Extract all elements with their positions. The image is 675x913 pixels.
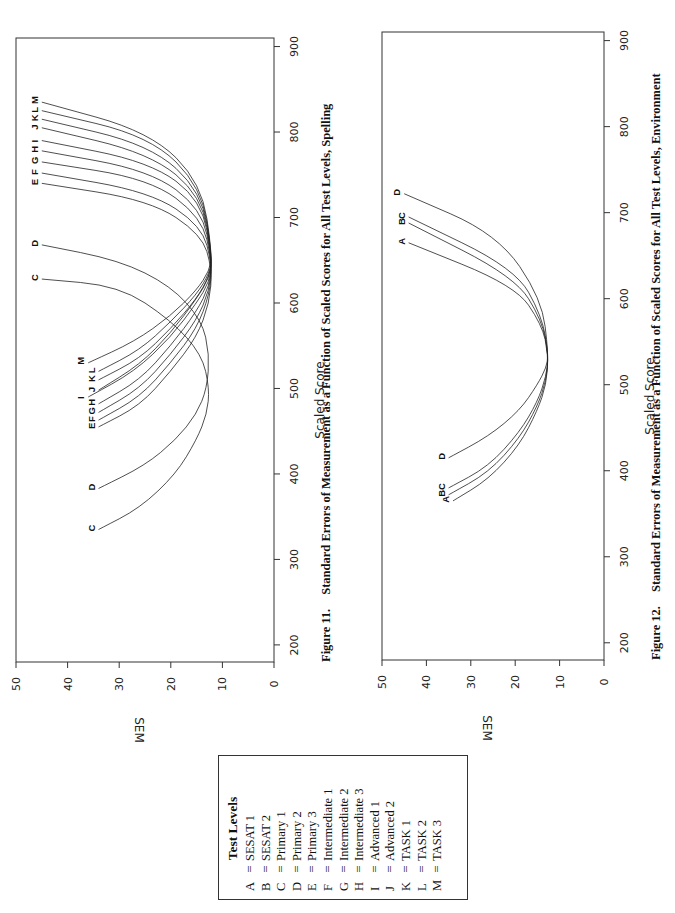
legend-key: L <box>415 877 431 891</box>
legend-label: Primary 3 <box>305 811 319 861</box>
legend-label: SESAT 1 <box>243 815 257 861</box>
legend-item: B=SESAT 2 <box>259 766 275 891</box>
curve-label: K <box>29 114 40 121</box>
legend-item: M=TASK 3 <box>430 766 446 891</box>
legend-label: TASK 2 <box>415 820 429 861</box>
curve-label: L <box>86 367 97 373</box>
legend-label: Primary 2 <box>290 811 304 861</box>
x-tick-label: 400 <box>288 463 301 484</box>
legend-item: I=Advanced 1 <box>368 766 384 891</box>
y-tick-label: 40 <box>420 675 433 689</box>
curve-label: K <box>86 375 97 382</box>
figure-11-caption: Figure 11.Standard Errors of Measurement… <box>319 103 333 662</box>
curve-d <box>404 194 547 458</box>
legend-label: TASK 1 <box>399 820 413 861</box>
legend-key: F <box>321 877 337 891</box>
legend-equals: = <box>352 861 368 877</box>
curve-label: C <box>396 212 407 219</box>
legend-item: L=TASK 2 <box>415 766 431 891</box>
x-tick-label: 500 <box>288 378 301 399</box>
legend-item: C=Primary 1 <box>274 766 290 891</box>
caption-text: Standard Errors of Measurement as a Func… <box>649 73 663 592</box>
legend-key: G <box>337 877 353 891</box>
x-tick-label: 500 <box>618 374 631 395</box>
y-tick-label: 30 <box>113 677 126 691</box>
y-axis-title: SEM <box>480 715 494 741</box>
test-levels-legend: Test Levels A=SESAT 1B=SESAT 2C=Primary … <box>218 755 468 900</box>
curve-l <box>42 111 211 372</box>
legend-key: J <box>383 877 399 891</box>
curve-e <box>42 183 211 427</box>
curve-label: M <box>29 96 40 104</box>
legend-equals: = <box>243 861 259 877</box>
x-tick-label: 600 <box>618 288 631 309</box>
legend-item: J=Advanced 2 <box>383 766 399 891</box>
legend-key: M <box>430 877 446 891</box>
x-tick-label: 300 <box>618 546 631 567</box>
curve-label: M <box>75 357 86 365</box>
plot-frame <box>16 38 274 662</box>
legend-list: A=SESAT 1B=SESAT 2C=Primary 1D=Primary 2… <box>243 766 446 891</box>
legend-label: Advanced 2 <box>383 801 397 861</box>
legend-equals: = <box>274 861 290 877</box>
x-tick-label: 300 <box>288 549 301 570</box>
curve-label: C <box>436 483 447 490</box>
legend-label: Intermediate 3 <box>352 788 366 861</box>
curve-i <box>42 141 211 397</box>
curve-c <box>409 217 548 488</box>
y-tick-label: 10 <box>554 675 567 689</box>
legend-equals: = <box>259 861 275 877</box>
legend-equals: = <box>305 861 321 877</box>
curve-a <box>409 243 548 501</box>
y-tick-label: 50 <box>10 677 23 691</box>
x-tick-label: 800 <box>618 116 631 137</box>
curve-f <box>42 173 211 420</box>
curve-j <box>42 128 211 390</box>
y-tick-label: 10 <box>216 677 229 691</box>
legend-key: E <box>305 877 321 891</box>
legend-key: B <box>259 877 275 891</box>
legend-label: Advanced 1 <box>368 801 382 861</box>
x-tick-label: 900 <box>288 36 301 57</box>
legend-title: Test Levels <box>225 766 241 891</box>
y-axis-title: SEM <box>132 717 146 743</box>
plot-frame <box>382 32 604 660</box>
curve-label: D <box>391 189 402 196</box>
legend-item: G=Intermediate 2 <box>337 766 353 891</box>
legend-item: A=SESAT 1 <box>243 766 259 891</box>
legend-equals: = <box>321 861 337 877</box>
legend-label: Intermediate 1 <box>321 788 335 861</box>
legend-equals: = <box>430 861 446 877</box>
curve-label: L <box>29 107 40 113</box>
legend-item: E=Primary 3 <box>305 766 321 891</box>
curve-label: A <box>396 238 407 245</box>
curve-label: D <box>29 240 40 247</box>
curve-label: H <box>86 399 97 406</box>
x-tick-label: 700 <box>618 202 631 223</box>
y-tick-label: 50 <box>376 675 389 689</box>
legend-key: A <box>243 877 259 891</box>
curve-label: I <box>29 140 40 143</box>
legend-label: Intermediate 2 <box>337 788 351 861</box>
x-tick-label: 400 <box>618 460 631 481</box>
caption-number: Figure 12. <box>649 606 663 660</box>
curve-label: D <box>436 453 447 460</box>
x-tick-label: 600 <box>288 292 301 313</box>
curve-label: C <box>86 525 97 532</box>
curve-label: D <box>86 483 97 490</box>
x-tick-label: 200 <box>618 632 631 653</box>
caption-text: Standard Errors of Measurement as a Func… <box>319 103 333 595</box>
legend-item: H=Intermediate 3 <box>352 766 368 891</box>
legend-equals: = <box>290 861 306 877</box>
figure-12-chart: 20030040050060070080090001020304050Scale… <box>376 30 663 741</box>
legend-equals: = <box>415 861 431 877</box>
curve-label: E <box>86 423 97 429</box>
legend-equals: = <box>399 861 415 877</box>
y-tick-label: 40 <box>62 677 75 691</box>
curve-label: F <box>29 169 40 175</box>
curve-label: J <box>86 387 97 392</box>
legend-label: TASK 3 <box>430 820 444 861</box>
x-tick-label: 900 <box>618 30 631 51</box>
legend-key: C <box>274 877 290 891</box>
legend-item: F=Intermediate 1 <box>321 766 337 891</box>
